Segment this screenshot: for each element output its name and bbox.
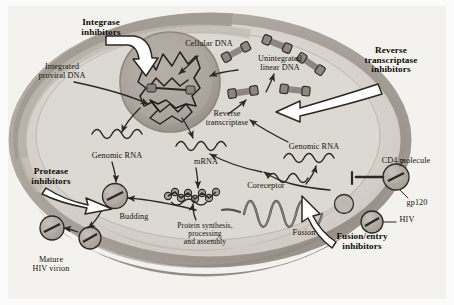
label-coreceptor: Coreceptor bbox=[237, 182, 295, 191]
label-gp120: gp120 bbox=[398, 199, 436, 208]
label-mrna: mRNA bbox=[185, 158, 227, 167]
budding-virion bbox=[103, 184, 128, 209]
free-hiv-particle bbox=[361, 211, 383, 233]
cd4-bound-virion bbox=[383, 164, 409, 190]
label-budding: Budding bbox=[110, 213, 158, 222]
label-integrase-inhibitors: Integrase inhibitors bbox=[62, 18, 140, 37]
label-genomic-rna-right: Genomic RNA bbox=[277, 143, 351, 152]
label-cellular-dna: Cellular DNA bbox=[174, 40, 244, 49]
label-reverse-transcriptase-inhibitors: Reverse transcriptase inhibitors bbox=[348, 46, 434, 75]
mature-virion bbox=[40, 216, 64, 240]
label-unintegrated-linear-dna: Unintegrated linear DNA bbox=[245, 55, 315, 72]
label-hiv: HIV bbox=[394, 216, 420, 225]
label-reverse-transcriptase: Reverse transcriptase bbox=[192, 110, 262, 127]
label-protein-synthesis: Protein synthesis, processing and assemb… bbox=[155, 222, 255, 246]
hiv-replication-cycle-figure: Integrase inhibitors Reverse transcripta… bbox=[0, 0, 454, 305]
fusing-virion bbox=[335, 195, 354, 214]
label-cd4-molecule: CD4 molecule bbox=[368, 157, 444, 166]
label-protease-inhibitors: Protease inhibitors bbox=[14, 167, 88, 186]
label-mature-hiv-virion: Mature HIV virion bbox=[20, 256, 82, 273]
label-integrated-proviral-dna: Integrated proviral DNA bbox=[24, 63, 100, 80]
label-fusion: Fusion bbox=[285, 229, 323, 238]
label-genomic-rna-left: Genomic RNA bbox=[80, 152, 154, 161]
released-virion bbox=[79, 227, 101, 249]
label-fusion-entry-inhibitors: Fusion/entry inhibitors bbox=[320, 232, 404, 251]
